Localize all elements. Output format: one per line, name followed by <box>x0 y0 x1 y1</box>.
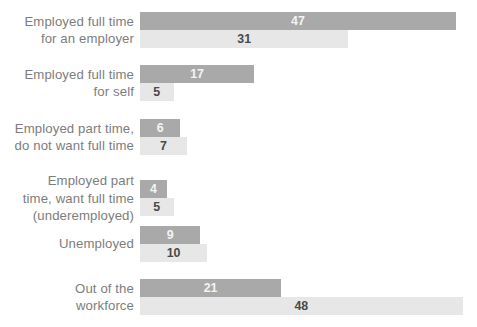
category-label: Employed full time for an employer <box>0 13 140 48</box>
bar-secondary[interactable]: 7 <box>140 137 187 155</box>
grouped-bar-chart: Employed full time for an employer 47 31… <box>0 0 477 327</box>
bar-value-primary: 4 <box>150 180 157 198</box>
bar-row: Out of the workforce 21 48 <box>0 279 477 315</box>
bar-value-secondary: 31 <box>237 30 251 48</box>
bar-secondary[interactable]: 5 <box>140 198 174 216</box>
bar-value-secondary: 5 <box>153 83 160 101</box>
category-label: Employed part time, do not want full tim… <box>0 120 140 155</box>
bar-value-secondary: 7 <box>160 137 167 155</box>
bar-value-primary: 9 <box>167 226 174 244</box>
bar-value-primary: 6 <box>157 119 164 137</box>
bar-primary[interactable]: 17 <box>140 65 254 83</box>
bars-area: 4 5 <box>140 180 477 216</box>
bar-value-primary: 21 <box>204 279 218 297</box>
bar-secondary[interactable]: 48 <box>140 297 463 315</box>
bar-secondary[interactable]: 10 <box>140 244 207 262</box>
bar-secondary[interactable]: 5 <box>140 83 174 101</box>
bars-area: 6 7 <box>140 119 477 155</box>
bar-value-primary: 47 <box>291 12 305 30</box>
bar-primary[interactable]: 47 <box>140 12 456 30</box>
bar-row: Employed part time, want full time (unde… <box>0 172 477 225</box>
bar-value-secondary: 10 <box>167 244 181 262</box>
bar-secondary[interactable]: 31 <box>140 30 348 48</box>
bar-primary[interactable]: 9 <box>140 226 200 244</box>
bars-area: 17 5 <box>140 65 477 101</box>
bars-area: 47 31 <box>140 12 477 48</box>
bar-primary[interactable]: 21 <box>140 279 281 297</box>
bar-value-secondary: 48 <box>294 297 308 315</box>
category-label: Out of the workforce <box>0 280 140 315</box>
bar-primary[interactable]: 4 <box>140 180 167 198</box>
bars-area: 21 48 <box>140 279 477 315</box>
bar-row: Employed full time for self 17 5 <box>0 65 477 101</box>
bar-primary[interactable]: 6 <box>140 119 180 137</box>
bars-area: 9 10 <box>140 226 477 262</box>
category-label: Employed part time, want full time (unde… <box>0 172 140 225</box>
bar-value-primary: 17 <box>190 65 204 83</box>
category-label: Unemployed <box>0 235 140 253</box>
bar-row: Employed full time for an employer 47 31 <box>0 12 477 48</box>
bar-row: Unemployed 9 10 <box>0 226 477 262</box>
category-label: Employed full time for self <box>0 66 140 101</box>
bar-value-secondary: 5 <box>153 198 160 216</box>
bar-row: Employed part time, do not want full tim… <box>0 119 477 155</box>
